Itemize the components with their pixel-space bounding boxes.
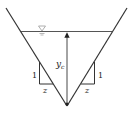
left-channel-wall [6,8,67,106]
left-run-label: z [42,86,48,95]
right-run-label: z [84,86,90,95]
right-rise-label: 1 [98,71,103,80]
left-rise-label: 1 [32,71,37,80]
depth-label: yc [55,59,65,70]
triangular-channel-diagram: yc 1 z 1 z [0,0,130,116]
water-surface-symbol-icon [39,26,46,35]
right-channel-wall [67,8,127,106]
vertex-point [65,102,68,105]
